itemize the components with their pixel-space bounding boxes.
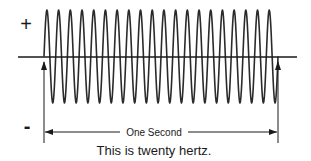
up-arrow-icon (275, 61, 281, 70)
up-arrow-icon (41, 61, 47, 70)
twenty-hertz-diagram: + - One Second This is twenty hertz. (0, 0, 311, 161)
negative-polarity-label: - (24, 115, 31, 137)
caption: This is twenty hertz. (97, 143, 212, 158)
interval-label: One Second (126, 127, 182, 138)
positive-polarity-label: + (20, 13, 32, 35)
